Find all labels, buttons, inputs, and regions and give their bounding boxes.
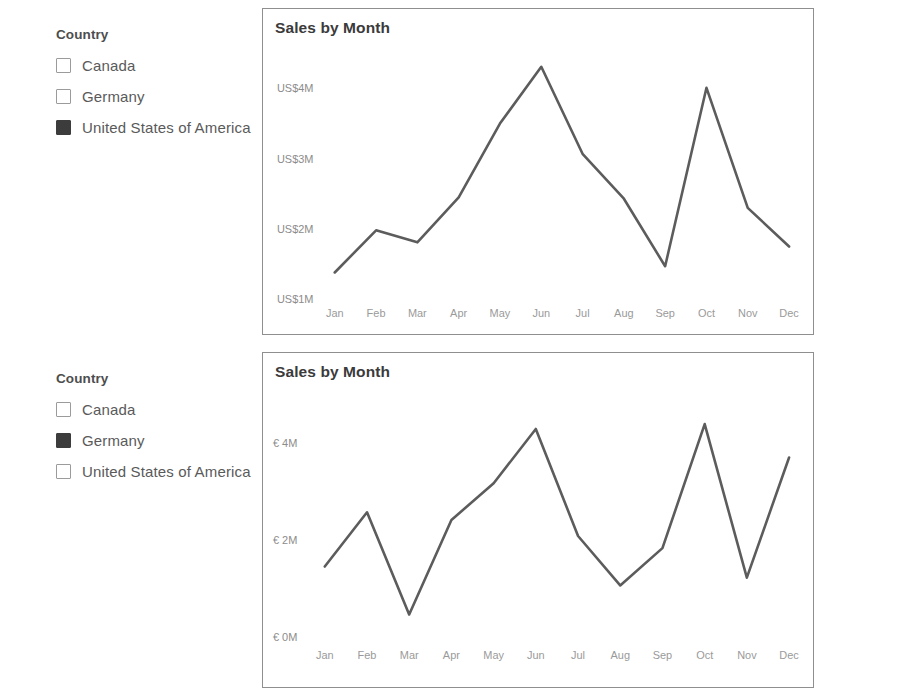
sales-by-month-chart-1[interactable]: Sales by Month US$4MUS$3MUS$2MUS$1MJanFe… (262, 8, 814, 335)
slicer-item-label: United States of America (82, 119, 251, 136)
checkbox-icon[interactable] (56, 402, 71, 417)
x-axis-tick-label: Mar (408, 307, 427, 319)
slicer-item-list-1: Canada Germany United States of America (56, 54, 258, 139)
x-axis-tick-label: Jun (527, 649, 545, 661)
x-axis-tick-label: Aug (614, 307, 633, 319)
slicer-item-united-states-of-america[interactable]: United States of America (56, 116, 258, 139)
checkbox-icon[interactable] (56, 433, 71, 448)
slicer-item-united-states-of-america[interactable]: United States of America (56, 460, 258, 483)
y-axis-tick-label: € 2M (273, 534, 297, 546)
x-axis-tick-label: Nov (737, 649, 757, 661)
slicer-item-label: Canada (82, 401, 135, 418)
country-slicer-1: Country Canada Germany Un (0, 8, 258, 139)
slicer-item-germany[interactable]: Germany (56, 85, 258, 108)
checkbox-icon[interactable] (56, 464, 71, 479)
x-axis-tick-label: May (490, 307, 511, 319)
report-row-2: Country Canada Germany Un (0, 352, 918, 688)
slicer-item-canada[interactable]: Canada (56, 54, 258, 77)
x-axis-tick-label: Sep (655, 307, 674, 319)
y-axis-tick-label: € 0M (273, 631, 297, 643)
y-axis-tick-label: US$3M (277, 153, 314, 165)
slicer-item-label: United States of America (82, 463, 251, 480)
slicer-item-label: Germany (82, 88, 145, 105)
series-line (335, 67, 789, 273)
sales-by-month-chart-2[interactable]: Sales by Month € 4M€ 2M€ 0MJanFebMarAprM… (262, 352, 814, 688)
checkbox-icon[interactable] (56, 89, 71, 104)
slicer-title: Country (56, 371, 108, 386)
y-axis-tick-label: US$1M (277, 293, 314, 305)
line-chart-plot-1: US$4MUS$3MUS$2MUS$1MJanFebMarAprMayJunJu… (263, 9, 813, 334)
checkbox-icon[interactable] (56, 120, 71, 135)
report-page: Country Canada Germany Un (0, 0, 918, 697)
series-line (325, 424, 789, 614)
x-axis-tick-label: Mar (400, 649, 419, 661)
checkbox-icon[interactable] (56, 58, 71, 73)
x-axis-tick-label: May (483, 649, 504, 661)
x-axis-tick-label: Aug (611, 649, 630, 661)
x-axis-tick-label: Feb (358, 649, 377, 661)
x-axis-tick-label: Jul (571, 649, 585, 661)
y-axis-tick-label: US$2M (277, 223, 314, 235)
x-axis-tick-label: Dec (779, 307, 799, 319)
country-slicer-2: Country Canada Germany Un (0, 352, 258, 483)
x-axis-tick-label: Dec (779, 649, 799, 661)
line-chart-plot-2: € 4M€ 2M€ 0MJanFebMarAprMayJunJulAugSepO… (263, 353, 813, 687)
x-axis-tick-label: Sep (653, 649, 672, 661)
report-row-1: Country Canada Germany Un (0, 8, 918, 335)
slicer-item-label: Germany (82, 432, 145, 449)
x-axis-tick-label: Jan (316, 649, 334, 661)
slicer-item-label: Canada (82, 57, 135, 74)
slicer-item-germany[interactable]: Germany (56, 429, 258, 452)
y-axis-tick-label: US$4M (277, 82, 314, 94)
y-axis-tick-label: € 4M (273, 437, 297, 449)
x-axis-tick-label: Apr (450, 307, 467, 319)
x-axis-tick-label: Oct (698, 307, 715, 319)
slicer-title: Country (56, 27, 108, 42)
x-axis-tick-label: Jun (532, 307, 550, 319)
x-axis-tick-label: Jul (576, 307, 590, 319)
x-axis-tick-label: Jan (326, 307, 344, 319)
x-axis-tick-label: Nov (738, 307, 758, 319)
slicer-item-canada[interactable]: Canada (56, 398, 258, 421)
x-axis-tick-label: Oct (696, 649, 713, 661)
x-axis-tick-label: Feb (367, 307, 386, 319)
slicer-item-list-2: Canada Germany United States of America (56, 398, 258, 483)
x-axis-tick-label: Apr (443, 649, 460, 661)
